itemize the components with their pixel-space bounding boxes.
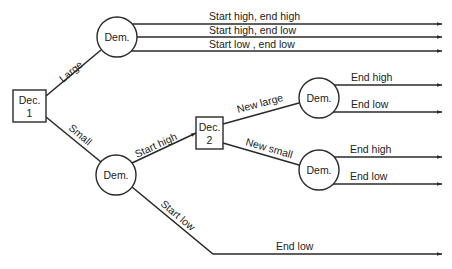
chance-node-small: Dem. xyxy=(96,155,136,195)
edge-label-new-large: New large xyxy=(235,91,284,115)
outcome-label-start-low-1: End low xyxy=(276,240,314,252)
outcome-label-new-small-2: End low xyxy=(350,170,388,182)
decision-node-2-label-line2: 2 xyxy=(207,134,213,146)
outcome-label-large-1: Start high, end high xyxy=(209,10,300,22)
chance-node-new-large-label: Dem. xyxy=(306,92,331,104)
outcome-label-new-small-1: End high xyxy=(350,143,392,155)
decision-node-1-label-line1: Dec. xyxy=(19,94,41,106)
outcome-label-new-large-1: End high xyxy=(351,71,393,83)
chance-node-new-small-label: Dem. xyxy=(306,164,331,176)
decision-node-1: Dec. 1 xyxy=(13,90,46,122)
decision-tree-diagram: Dec. 1 Dem. Dem. Dec. 2 Dem. Dem. xyxy=(0,0,452,269)
edge-label-small: Small xyxy=(67,121,95,147)
chance-node-large: Dem. xyxy=(97,17,137,57)
outcome-label-new-large-2: End low xyxy=(351,98,389,110)
outcome-label-large-3: Start low , end low xyxy=(209,38,295,50)
chance-node-small-label: Dem. xyxy=(103,169,128,181)
chance-node-new-large: Dem. xyxy=(299,78,339,118)
decision-node-1-label-line2: 1 xyxy=(27,107,33,119)
decision-node-2: Dec. 2 xyxy=(196,117,223,149)
decision-node-2-label-line1: Dec. xyxy=(199,121,221,133)
edge-label-start-low: Start low xyxy=(159,197,198,233)
chance-node-large-label: Dem. xyxy=(104,31,129,43)
outcome-label-large-2: Start high, end low xyxy=(209,24,296,36)
edge-label-large: Large xyxy=(57,58,85,85)
chance-node-new-small: Dem. xyxy=(299,150,339,190)
